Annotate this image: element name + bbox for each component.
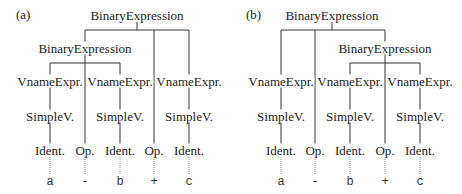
ident-node: Ident.	[173, 144, 205, 157]
simple-node: SimpleV.	[256, 110, 306, 123]
root-node: BinaryExpression	[89, 9, 184, 22]
token: -	[311, 176, 318, 188]
vname-node: VnameExpr.	[386, 75, 453, 88]
simple-node: SimpleV.	[95, 110, 145, 123]
inner-node: BinaryExpression	[337, 42, 432, 55]
token: +	[150, 176, 157, 188]
token: +	[381, 176, 388, 188]
token: b	[346, 176, 353, 188]
simple-node: SimpleV.	[325, 110, 375, 123]
token: a	[46, 176, 53, 188]
ident-node: Ident.	[334, 144, 366, 157]
op-node: Op.	[374, 144, 395, 157]
token: -	[81, 176, 88, 188]
simple-node: SimpleV.	[164, 110, 214, 123]
token: c	[185, 176, 192, 188]
root-node: BinaryExpression	[284, 9, 379, 22]
panel-label: (a)	[16, 8, 30, 21]
ident-node: Ident.	[404, 144, 436, 157]
op-node: Op.	[304, 144, 325, 157]
token: b	[116, 176, 123, 188]
vname-node: VnameExpr.	[16, 75, 83, 88]
panel-label: (b)	[246, 8, 261, 21]
vname-node: VnameExpr.	[86, 75, 153, 88]
op-node: Op.	[74, 144, 95, 157]
ident-node: Ident.	[265, 144, 297, 157]
ident-node: Ident.	[34, 144, 66, 157]
inner-node: BinaryExpression	[37, 42, 132, 55]
vname-node: VnameExpr.	[247, 75, 314, 88]
token: c	[416, 176, 423, 188]
token: a	[277, 176, 284, 188]
ident-node: Ident.	[104, 144, 136, 157]
vname-node: VnameExpr.	[316, 75, 383, 88]
simple-node: SimpleV.	[395, 110, 445, 123]
tree-edges	[0, 0, 462, 194]
vname-node: VnameExpr.	[155, 75, 222, 88]
simple-node: SimpleV.	[25, 110, 75, 123]
op-node: Op.	[143, 144, 164, 157]
